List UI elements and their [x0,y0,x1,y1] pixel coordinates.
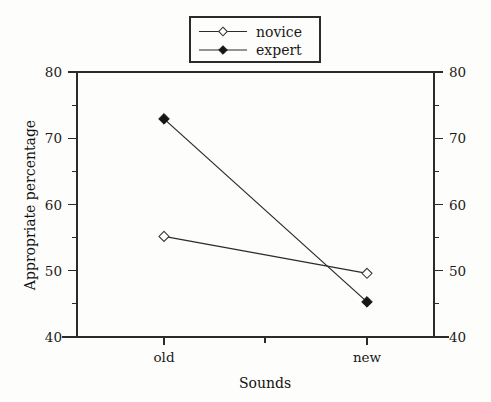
right-tick-label-50: 50 [449,263,466,279]
chart-legend: novice expert [190,17,320,62]
left-tick-label-80: 80 [45,64,62,80]
legend-label-novice: novice [256,24,302,40]
bottom-axis-ticks: old new [153,337,381,365]
left-tick-label-50: 50 [45,263,62,279]
right-tick-label-40: 40 [449,329,466,345]
right-axis-ticks: 80 70 60 50 40 [434,64,466,345]
left-axis-ticks: 80 70 60 50 40 [45,64,77,345]
right-tick-label-60: 60 [449,197,466,213]
x-tick-label-new: new [353,349,382,365]
line-chart: 80 70 60 50 40 80 70 60 50 40 [0,0,491,402]
left-tick-label-40: 40 [45,329,62,345]
chart-figure: 80 70 60 50 40 80 70 60 50 40 [0,0,491,402]
series-expert [159,114,373,308]
left-tick-label-60: 60 [45,197,62,213]
plot-frame [62,72,449,337]
right-tick-label-70: 70 [449,130,466,146]
legend-label-expert: expert [256,42,302,58]
x-tick-label-old: old [153,349,174,365]
right-tick-label-80: 80 [449,64,466,80]
data-point-novice-old [159,231,169,241]
left-tick-label-70: 70 [45,130,62,146]
series-expert-line [164,119,367,302]
series-novice-line [164,236,367,273]
series-novice [159,231,372,278]
data-point-novice-new [362,268,372,278]
y-axis-title: Appropriate percentage [22,120,38,291]
x-axis-title: Sounds [239,375,291,391]
